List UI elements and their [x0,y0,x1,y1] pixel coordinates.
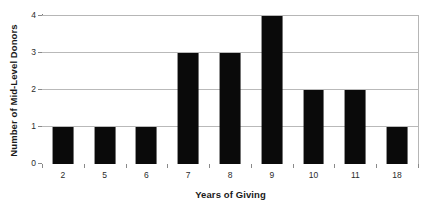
bar[interactable] [345,90,366,164]
bar[interactable] [220,53,241,164]
bar-slot [167,16,209,164]
y-axis-title: Number of Mid-Level Donors [6,9,22,172]
x-tick-label: 8 [209,170,251,180]
bar[interactable] [136,127,157,164]
bar-slot [376,16,418,164]
bar[interactable] [261,16,282,164]
y-tick-label-1: 1 [22,122,36,131]
bar-slot [251,16,293,164]
plot-area [42,15,419,164]
x-tick-label: 7 [167,170,209,180]
bar[interactable] [387,127,408,164]
x-tick-label: 9 [251,170,293,180]
x-tick-mark [418,164,419,168]
bar[interactable] [94,127,115,164]
y-tick-label-4: 4 [22,11,36,20]
x-tick-mark [84,164,85,168]
x-tick-mark [42,164,43,168]
x-tick-mark [167,164,168,168]
x-tick-label: 2 [42,170,84,180]
y-tick-label-2: 2 [22,85,36,94]
x-tick-mark [376,164,377,168]
bar[interactable] [303,90,324,164]
bar-slot [209,16,251,164]
x-tick-label: 10 [293,170,335,180]
x-tick-mark [209,164,210,168]
bar-slot [126,16,168,164]
x-tick-label: 6 [126,170,168,180]
bar[interactable] [52,127,73,164]
bars-layer [42,16,418,164]
x-tick-label: 11 [334,170,376,180]
y-tick-label-0: 0 [22,159,36,168]
bar-slot [42,16,84,164]
x-axis-title: Years of Giving [42,189,419,200]
bar-slot [293,16,335,164]
x-tick-label: 5 [84,170,126,180]
x-tick-mark [126,164,127,168]
x-tick-mark [334,164,335,168]
x-tick-mark [293,164,294,168]
bar[interactable] [178,53,199,164]
y-axis-tick-labels: 0 1 2 3 4 [22,0,36,212]
bar-slot [84,16,126,164]
bar-slot [334,16,376,164]
x-tick-mark [251,164,252,168]
bar-chart: Number of Mid-Level Donors 0 1 2 3 4 256… [0,0,435,212]
y-tick-label-3: 3 [22,48,36,57]
x-tick-label: 18 [376,170,418,180]
